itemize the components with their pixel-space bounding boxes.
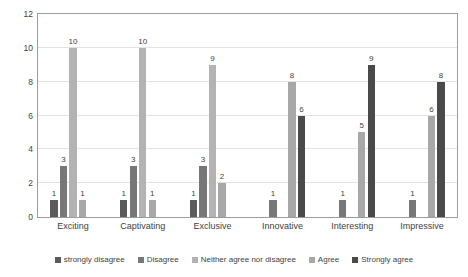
bar (190, 200, 197, 217)
bar (298, 116, 305, 218)
y-tick-label: 2 (5, 178, 33, 188)
legend-label: strongly disagree (64, 256, 125, 264)
bar-value-label: 3 (131, 155, 135, 164)
bar-value-label: 8 (439, 71, 443, 80)
category-group: 168 (387, 14, 457, 217)
legend-item[interactable]: Strongly agree (352, 256, 413, 264)
bar (428, 116, 435, 218)
bar (130, 166, 137, 217)
bar-value-label: 1 (150, 189, 154, 198)
bar-value-label: 1 (271, 189, 275, 198)
x-tick-label: Interesting (331, 221, 373, 231)
y-tick-label: 12 (5, 9, 33, 19)
legend-swatch-icon (192, 257, 198, 263)
bar (218, 183, 225, 217)
legend-item[interactable]: Disagree (138, 256, 179, 264)
bar (437, 82, 444, 217)
bar-value-label: 10 (68, 37, 77, 46)
bar (209, 65, 216, 217)
x-tick-label: Impressive (400, 221, 444, 231)
bar-value-label: 2 (220, 172, 224, 181)
category-group: 159 (317, 14, 387, 217)
legend-swatch-icon (309, 257, 315, 263)
bar-chart: 024681012 13101131011392186159168 Exciti… (0, 0, 468, 277)
legend-item[interactable]: Neither agree nor disagree (192, 256, 296, 264)
legend-item[interactable]: Agree (309, 256, 339, 264)
bar (79, 200, 86, 217)
bar (120, 200, 127, 217)
bar (199, 166, 206, 217)
bar (50, 200, 57, 217)
bar-value-label: 8 (290, 71, 294, 80)
legend-label: Strongly agree (361, 256, 413, 264)
legend-swatch-icon (138, 257, 144, 263)
bar (149, 200, 156, 217)
y-axis: 024681012 (0, 13, 33, 218)
y-tick-label: 6 (5, 111, 33, 121)
legend-swatch-icon (55, 257, 61, 263)
bar-value-label: 3 (201, 155, 205, 164)
bar (60, 166, 67, 217)
x-tick-label: Exciting (57, 221, 89, 231)
legend-swatch-icon (352, 257, 358, 263)
bar-value-label: 9 (369, 54, 373, 63)
bar (139, 48, 146, 217)
legend-label: Agree (318, 256, 339, 264)
bar-value-label: 5 (360, 121, 364, 130)
bar (269, 200, 276, 217)
bar-value-label: 3 (61, 155, 65, 164)
bar-value-label: 9 (210, 54, 214, 63)
bar-value-label: 1 (191, 189, 195, 198)
y-tick-label: 8 (5, 77, 33, 87)
bar (69, 48, 76, 217)
x-tick-label: Captivating (120, 221, 165, 231)
y-tick-label: 10 (5, 43, 33, 53)
bar-value-label: 6 (299, 105, 303, 114)
category-group: 13101 (38, 14, 108, 217)
x-tick-label: Innovative (262, 221, 303, 231)
legend-label: Disagree (147, 256, 179, 264)
legend-item[interactable]: strongly disagree (55, 256, 125, 264)
bar (339, 200, 346, 217)
bar-value-label: 1 (80, 189, 84, 198)
bar-value-label: 10 (138, 37, 147, 46)
bar-value-label: 1 (122, 189, 126, 198)
category-group: 13101 (108, 14, 178, 217)
x-axis: ExcitingCaptivatingExclusiveInnovativeIn… (38, 221, 457, 237)
legend-label: Neither agree nor disagree (201, 256, 296, 264)
bars-layer: 13101131011392186159168 (38, 14, 457, 217)
y-tick-label: 0 (5, 212, 33, 222)
bar (288, 82, 295, 217)
bar (358, 132, 365, 217)
y-tick-label: 4 (5, 144, 33, 154)
bar-value-label: 1 (341, 189, 345, 198)
bar (409, 200, 416, 217)
bar-value-label: 1 (52, 189, 56, 198)
x-tick-label: Exclusive (194, 221, 232, 231)
category-group: 1392 (178, 14, 248, 217)
bar-value-label: 1 (410, 189, 414, 198)
chart-legend: strongly disagreeDisagreeNeither agree n… (0, 253, 468, 267)
bar-value-label: 6 (429, 105, 433, 114)
category-group: 186 (248, 14, 318, 217)
bar (368, 65, 375, 217)
